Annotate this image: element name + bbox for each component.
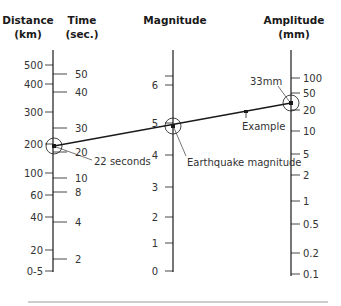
distance-tick-label: 400 [24,79,43,90]
amplitude-tick-label: 0.5 [303,219,319,230]
amplitude-tick-label: 20 [303,105,316,116]
distance-tick-label: 500 [24,60,43,71]
time-tick-label: 40 [75,87,88,98]
amplitude-tick-label: 100 [303,73,322,84]
time-tick-label: 50 [75,69,88,80]
example-label: Example [242,121,285,132]
amplitude-tick-label: 0.1 [303,269,319,280]
time-header: Time [68,14,97,26]
distance-tick-label: 40 [30,212,43,223]
distance-header: Distance [2,14,54,26]
amplitude-header: (mm) [278,28,309,40]
amplitude-header: Amplitude [264,14,325,26]
time-tick-label: 4 [75,217,81,228]
amplitude-annotation-leader [278,86,289,101]
magnitude-point-marker [171,124,175,128]
time-annotation: 22 seconds [94,156,151,167]
amplitude-tick-label: 50 [303,88,316,99]
distance-tick-label: 100 [24,168,43,179]
distance-header: (km) [14,28,42,40]
amplitude-tick-label: 2 [303,170,309,181]
distance-tick-label: 200 [24,139,43,150]
magnitude-tick-label: 1 [152,238,158,249]
magnitude-annotation-leader [174,128,186,156]
distance-tick-label: 0-5 [27,266,43,277]
time-tick-label: 8 [75,187,81,198]
amplitude-tick-label: 10 [303,126,316,137]
magnitude-tick-label: 0 [152,266,158,277]
magnitude-tick-label: 6 [152,80,158,91]
distance-tick-label: 300 [24,107,43,118]
amplitude-tick-label: 0.2 [303,248,319,259]
richter-nomogram: Distance(km)Time(sec.)MagnitudeAmplitude… [0,0,341,306]
magnitude-tick-label: 4 [152,150,158,161]
time-tick-label: 2 [75,254,81,265]
time-header: (sec.) [65,28,98,40]
magnitude-annotation: Earthquake magnitude [187,157,302,168]
magnitude-tick-label: 2 [152,212,158,223]
time-tick-label: 10 [75,173,88,184]
magnitude-tick-label: 3 [152,182,158,193]
magnitude-header: Magnitude [143,14,206,26]
amplitude-tick-label: 1 [303,196,309,207]
axis-headers: Distance(km)Time(sec.)MagnitudeAmplitude… [2,14,324,40]
distance-point-marker [52,144,56,148]
distance-tick-label: 20 [30,245,43,256]
distance-tick-label: 60 [30,190,43,201]
amplitude-point-marker [289,101,293,105]
time-tick-label: 30 [75,123,88,134]
amplitude-annotation: 33mm [250,76,282,87]
amplitude-tick-label: 5 [303,149,309,160]
